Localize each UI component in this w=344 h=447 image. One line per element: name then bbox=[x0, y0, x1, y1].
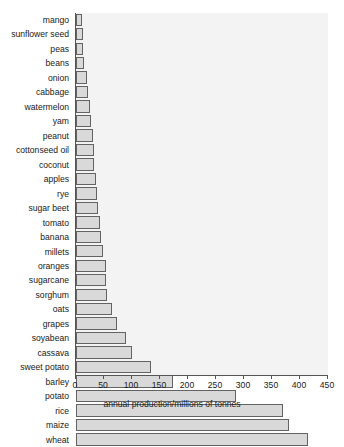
category-label: sunflower seed bbox=[0, 27, 72, 41]
category-label: oranges bbox=[0, 259, 72, 273]
bar-row bbox=[76, 230, 328, 244]
bar-row bbox=[76, 346, 328, 360]
x-tick bbox=[215, 375, 216, 379]
x-tick-label: 450 bbox=[320, 380, 334, 390]
x-axis: 050100150200250300350400450 bbox=[75, 375, 328, 376]
bar-row bbox=[76, 56, 328, 70]
category-label: cabbage bbox=[0, 85, 72, 99]
bar-row bbox=[76, 216, 328, 230]
bar-row bbox=[76, 27, 328, 41]
bar-row bbox=[76, 273, 328, 287]
bar-row bbox=[76, 375, 328, 389]
category-label: beans bbox=[0, 56, 72, 70]
bar bbox=[76, 86, 88, 98]
x-tick-label: 50 bbox=[98, 380, 108, 390]
category-label: peas bbox=[0, 42, 72, 56]
bar bbox=[76, 173, 96, 185]
category-label: rye bbox=[0, 187, 72, 201]
x-tick bbox=[299, 375, 300, 379]
bar bbox=[76, 28, 83, 40]
bar-row bbox=[76, 114, 328, 128]
x-tick bbox=[271, 375, 272, 379]
bar-row bbox=[76, 201, 328, 215]
bar-row bbox=[76, 187, 328, 201]
category-label: sugarcane bbox=[0, 273, 72, 287]
bar bbox=[76, 14, 82, 26]
bar-row bbox=[76, 85, 328, 99]
bar-row bbox=[76, 143, 328, 157]
bar bbox=[76, 419, 289, 431]
category-label: watermelon bbox=[0, 100, 72, 114]
category-label: tomato bbox=[0, 216, 72, 230]
x-axis-title: annual production/millions of tonnes bbox=[0, 399, 344, 409]
x-tick bbox=[75, 375, 76, 379]
category-label: banana bbox=[0, 230, 72, 244]
bar-row bbox=[76, 418, 328, 432]
x-tick-label: 0 bbox=[73, 380, 78, 390]
category-label: sugar beet bbox=[0, 201, 72, 215]
bar bbox=[76, 202, 98, 214]
bar-row bbox=[76, 158, 328, 172]
category-label: oats bbox=[0, 302, 72, 316]
category-label: cottonseed oil bbox=[0, 143, 72, 157]
bar bbox=[76, 289, 107, 301]
category-label: barley bbox=[0, 375, 72, 389]
bar-row bbox=[76, 129, 328, 143]
bar bbox=[76, 245, 103, 257]
x-tick bbox=[327, 375, 328, 379]
category-label: yam bbox=[0, 114, 72, 128]
x-tick bbox=[103, 375, 104, 379]
category-label: sorghum bbox=[0, 288, 72, 302]
bar-row bbox=[76, 360, 328, 374]
bar-row bbox=[76, 288, 328, 302]
category-label: cassava bbox=[0, 346, 72, 360]
category-label: grapes bbox=[0, 317, 72, 331]
x-tick bbox=[159, 375, 160, 379]
bar bbox=[76, 231, 101, 243]
x-tick bbox=[187, 375, 188, 379]
bar-row bbox=[76, 317, 328, 331]
bar bbox=[76, 158, 94, 170]
category-label: coconut bbox=[0, 158, 72, 172]
bar bbox=[76, 71, 87, 83]
category-label: peanut bbox=[0, 129, 72, 143]
bar bbox=[76, 332, 126, 344]
category-label: wheat bbox=[0, 433, 72, 447]
category-label: millets bbox=[0, 245, 72, 259]
category-label: apples bbox=[0, 172, 72, 186]
bar bbox=[76, 274, 106, 286]
category-label: onion bbox=[0, 71, 72, 85]
bar-row bbox=[76, 331, 328, 345]
bar bbox=[76, 260, 106, 272]
bar bbox=[76, 57, 84, 69]
bar bbox=[76, 187, 97, 199]
bar bbox=[76, 115, 91, 127]
x-tick-label: 200 bbox=[180, 380, 194, 390]
x-tick-label: 150 bbox=[152, 380, 166, 390]
bar bbox=[76, 346, 132, 358]
category-label: soyabean bbox=[0, 331, 72, 345]
category-axis-labels: mangosunflower seedpeasbeansonioncabbage… bbox=[0, 13, 72, 375]
bar-row bbox=[76, 259, 328, 273]
bar bbox=[76, 303, 112, 315]
x-tick-label: 300 bbox=[236, 380, 250, 390]
bar bbox=[76, 43, 83, 55]
bar-row bbox=[76, 245, 328, 259]
bar-row bbox=[76, 100, 328, 114]
x-tick-label: 400 bbox=[292, 380, 306, 390]
bar bbox=[76, 433, 308, 445]
bar-row bbox=[76, 42, 328, 56]
category-label: sweet potato bbox=[0, 360, 72, 374]
x-tick-label: 350 bbox=[264, 380, 278, 390]
bar-row bbox=[76, 71, 328, 85]
x-tick bbox=[243, 375, 244, 379]
bar bbox=[76, 100, 90, 112]
bar bbox=[76, 144, 94, 156]
x-tick-label: 250 bbox=[208, 380, 222, 390]
category-label: mango bbox=[0, 13, 72, 27]
bar-row bbox=[76, 172, 328, 186]
plot-area bbox=[75, 13, 328, 375]
bar bbox=[76, 129, 93, 141]
bar-row bbox=[76, 13, 328, 27]
